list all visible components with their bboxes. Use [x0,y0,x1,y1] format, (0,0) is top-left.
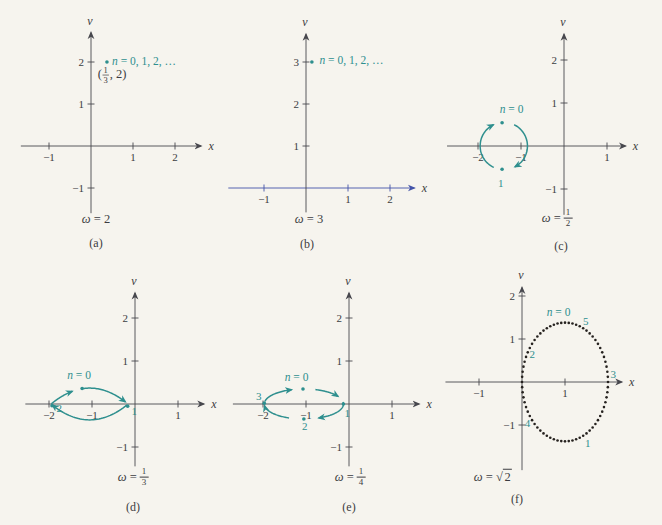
data-point [80,387,84,391]
trajectory-arc [315,390,338,397]
y-tick-label: 2 [337,312,343,324]
data-points [310,60,314,64]
y-axis-label: v [131,274,137,288]
trajectory-dot [546,434,549,437]
trajectory-dot [604,360,607,363]
trajectory-dot [536,426,539,429]
iterate-label: 2 [302,420,308,432]
y-tick-label: 1 [552,97,558,109]
subplot-caption-f: (f) [511,493,523,505]
trajectory-dot [546,327,549,330]
data-points [105,60,109,64]
data-point [105,60,109,64]
trajectory-dot [564,440,567,443]
trajectory-dot [603,406,606,409]
y-tick-label: 1 [79,98,85,110]
omega-caption-b: ω = 3 [295,213,323,226]
data-point [126,404,130,408]
x-tick-label: −1 [300,409,312,421]
x-axis-label: x [210,397,217,411]
trajectory-dot [536,335,539,338]
phase-plot-figure: xv−112−112n = 0, 1, 2, …(13, 2)ω = 2(a)x… [0,0,662,525]
x-axis-label: x [207,139,214,153]
trajectory-dot [575,438,578,441]
trajectory-dot [521,381,524,384]
trajectory-dot [594,339,597,342]
y-tick-label: 2 [552,54,558,66]
y-tick-label: −1 [503,419,515,431]
trajectory-dot [525,356,528,359]
y-axis-label: v [87,14,93,28]
y-axis-label: v [345,274,351,288]
subplot-caption-c: (c) [554,240,567,252]
omega-caption-a: ω = 2 [82,213,110,226]
trajectory-dot [525,406,528,409]
y-tick-label: −1 [330,441,342,453]
trajectory-dot [567,440,570,443]
trajectory-dot [585,329,588,332]
data-point [500,167,504,171]
subplot-caption-d: (d) [126,501,140,513]
subplot-a: xv−112−112n = 0, 1, 2, …(13, 2) [0,0,225,260]
iterate-label: 1 [131,405,137,417]
trajectory-dot [591,426,594,429]
trajectory-dot [599,415,602,418]
data-point [301,387,305,391]
trajectory-dot [560,440,563,443]
x-tick-label: −1 [43,151,55,163]
axes: xv−112123 [228,15,427,212]
y-tick-label: 1 [337,355,343,367]
data-point [342,402,346,406]
x-axis-label: x [425,397,432,411]
omega-caption-d: ω = 13 [118,468,149,489]
trajectory-dot [567,322,570,325]
subplot-caption-b: (b) [300,238,314,250]
trajectory-dot [522,396,525,399]
y-axis-label: v [560,15,566,29]
n-series-label: n = 0 [285,371,309,383]
trajectory-dot [553,323,556,326]
y-tick-label: 1 [294,140,300,152]
y-axis-label: v [518,268,524,282]
iterate-label: 4 [525,417,531,429]
annotations: n = 0, 1, 2, …(13, 2) [98,55,176,86]
trajectory-dot [606,370,609,373]
y-tick-label: 3 [294,56,300,68]
trajectory-dot [571,439,574,442]
axes: xv−2−11−112 [233,274,433,466]
omega-caption-f: ω = √2 [474,471,512,484]
trajectory-dot [539,429,542,432]
trajectory-dot [526,410,529,413]
x-tick-label: 1 [130,151,136,163]
axes: xv−11−112 [445,268,635,470]
coordinate-label: ( [98,67,102,81]
subplot-b: xv−112123n = 0, 1, 2, … [225,0,445,260]
omega-caption-c: ω = 12 [542,209,573,230]
trajectory-dot [542,432,545,435]
iterate-label: 1 [498,177,504,189]
subplot-caption-a: (a) [89,237,102,249]
trajectory-dot [549,325,552,328]
data-point [310,60,314,64]
subplot-d: xv−2−11−112n = 021 [0,262,225,525]
iterate-label: 1 [585,437,591,449]
trajectory-dot [521,376,524,379]
trajectory-dot [607,386,610,389]
trajectory-dot [522,365,525,368]
y-tick-label: 2 [79,56,85,68]
trajectory-dot [604,401,607,404]
n-series-label: n = 0 [500,103,524,115]
x-axis-label: x [421,181,428,195]
trajectory-dot [605,365,608,368]
trajectory-dot [533,423,536,426]
trajectory-dot [599,347,602,350]
x-tick-label: 1 [604,151,610,163]
iterate-label: 3 [610,368,616,380]
x-tick-label: 1 [175,409,181,421]
x-axis-label: x [628,375,635,389]
trajectory-dot [605,396,608,399]
trajectory-dot [588,332,591,335]
trajectory-dot [601,351,604,354]
trajectory-dot [578,325,581,328]
trajectory-arc [83,388,125,402]
